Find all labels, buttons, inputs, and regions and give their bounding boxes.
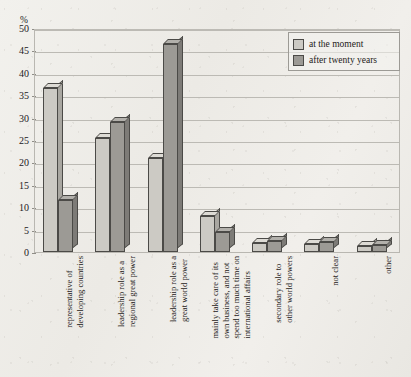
bar-front-face: [95, 138, 110, 252]
bar-front-face: [163, 44, 178, 252]
x-axis-category-label: leadership role as a great world power: [168, 256, 189, 322]
gridline: [35, 142, 399, 143]
bar-at-the-moment: [252, 243, 267, 252]
bar-at-the-moment: [95, 138, 110, 252]
y-axis-tick-label: 35: [19, 91, 29, 101]
y-axis-tick-label: 45: [19, 46, 29, 56]
y-axis-tick-label: 20: [19, 158, 29, 168]
bar-front-face: [110, 122, 125, 252]
bar-after-twenty-years: [215, 232, 230, 252]
gridline: [35, 75, 399, 76]
y-axis-tick-label: 15: [19, 181, 29, 191]
gridline: [35, 187, 399, 188]
legend-item-label: at the moment: [309, 39, 363, 49]
bar-after-twenty-years: [110, 122, 125, 252]
bar-front-face: [267, 241, 282, 252]
bar-at-the-moment: [43, 88, 58, 252]
legend-swatch-icon: [293, 55, 304, 66]
legend: at the moment after twenty years: [288, 32, 400, 71]
x-axis-category-label: leadership role as a regional great powe…: [116, 256, 137, 327]
bar-front-face: [319, 242, 334, 252]
y-axis-tick-label: 40: [19, 69, 29, 79]
y-axis-tick-label: 25: [19, 136, 29, 146]
legend-item-after-twenty-years[interactable]: after twenty years: [293, 52, 395, 68]
bar-front-face: [304, 244, 319, 252]
gridline: [35, 97, 399, 98]
bar-at-the-moment: [200, 216, 215, 252]
x-axis-category-label: representative of developing countries: [64, 256, 85, 328]
bar-after-twenty-years: [163, 44, 178, 252]
y-axis-tick-label: 0: [24, 248, 29, 258]
bar-front-face: [372, 245, 387, 252]
bar-front-face: [58, 200, 73, 252]
bar-at-the-moment: [148, 158, 163, 252]
x-axis-category-labels: representative of developing countriesle…: [34, 256, 400, 374]
gridline: [35, 120, 399, 121]
bar-front-face: [252, 243, 267, 252]
x-axis-category-label: other: [383, 256, 394, 274]
gridline: [35, 164, 399, 165]
bar-side-face: [125, 114, 130, 248]
bar-at-the-moment: [304, 244, 319, 252]
bar-front-face: [200, 216, 215, 252]
x-axis-category-label: mainly take care of its own business, an…: [210, 256, 252, 339]
y-axis-tick-label: 50: [19, 24, 29, 34]
x-axis-category-label: secondary role to other world powers: [273, 256, 294, 323]
legend-item-label: after twenty years: [309, 55, 377, 65]
bar-after-twenty-years: [372, 245, 387, 252]
bar-at-the-moment: [357, 246, 372, 252]
x-axis-category-label: not clear: [330, 256, 341, 286]
bar-after-twenty-years: [319, 242, 334, 252]
bar-after-twenty-years: [58, 200, 73, 252]
y-axis: 05101520253035404550: [0, 29, 32, 253]
bar-after-twenty-years: [267, 241, 282, 252]
legend-item-at-the-moment[interactable]: at the moment: [293, 36, 395, 52]
bar-side-face: [178, 36, 183, 248]
bar-chart: % 05101520253035404550 representative of…: [0, 0, 411, 377]
y-axis-tick-label: 30: [19, 114, 29, 124]
y-axis-tick-mark: [32, 253, 36, 254]
legend-swatch-icon: [293, 39, 304, 50]
bar-side-face: [73, 193, 78, 248]
bar-front-face: [43, 88, 58, 252]
y-axis-tick-label: 10: [19, 203, 29, 213]
y-axis-tick-label: 5: [24, 226, 29, 236]
bar-front-face: [357, 246, 372, 252]
gridline: [35, 30, 399, 31]
bar-front-face: [148, 158, 163, 252]
bar-front-face: [215, 232, 230, 252]
